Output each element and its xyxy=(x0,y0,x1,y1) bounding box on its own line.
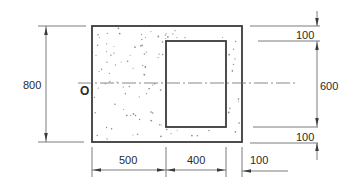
right-dimensions: 100 600 100 xyxy=(250,11,338,160)
arrow-up-icon xyxy=(44,27,48,35)
section-drawing: O 800 100 600 100 xyxy=(0,0,356,191)
arrow-down-icon xyxy=(315,118,319,126)
inner-opening xyxy=(166,41,226,127)
arrow-down-icon xyxy=(44,133,48,141)
arrow-down-icon xyxy=(315,18,319,26)
arrow-left-icon xyxy=(243,169,251,173)
origin-label: O xyxy=(80,84,89,98)
bottom-dimensions: 500 400 100 xyxy=(92,147,288,177)
arrow-right-icon xyxy=(217,168,225,172)
svg-text:100: 100 xyxy=(296,29,314,41)
arrow-right-icon xyxy=(157,168,165,172)
arrow-left-icon xyxy=(93,168,101,172)
svg-text:600: 600 xyxy=(320,80,338,92)
left-dimension-800: 800 xyxy=(23,26,86,142)
arrow-up-icon xyxy=(315,143,319,151)
arrow-up-icon xyxy=(315,42,319,50)
svg-text:500: 500 xyxy=(119,154,137,166)
svg-text:800: 800 xyxy=(23,79,41,91)
svg-text:100: 100 xyxy=(250,154,268,166)
svg-text:100: 100 xyxy=(296,131,314,143)
arrow-left-icon xyxy=(167,168,175,172)
svg-text:400: 400 xyxy=(187,154,205,166)
